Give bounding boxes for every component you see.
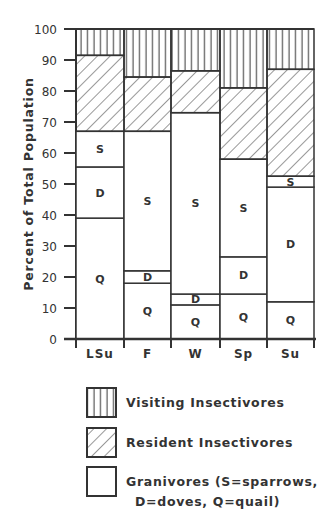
y-tick-label: 60 [42,147,57,161]
legend: Visiting InsectivoresResident Insectivor… [87,388,318,509]
segment-label: D [286,238,295,251]
x-axis: LSuFWSpSu [64,339,316,361]
segment-label: Q [191,316,200,329]
bar-segment [220,88,267,159]
x-tick-label: F [143,347,152,361]
bar-segment [124,29,171,77]
legend-swatch [87,428,116,457]
bar-F: QDS [124,29,171,339]
segment-label: Q [143,305,152,318]
segment-label: S [144,195,152,208]
segment-label: S [96,143,104,156]
y-tick-label: 50 [42,178,57,192]
bar-segment [171,71,220,113]
segment-label: D [191,293,200,306]
legend-label: Granivores (S=sparrows, [126,474,318,489]
segment-label: Q [95,273,104,286]
segment-label: D [143,271,152,284]
bar-W: QDS [171,29,220,339]
bar-segment [76,29,124,55]
segment-label: S [192,197,200,210]
y-tick-label: 80 [42,85,57,99]
stacked-bar-chart: 0102030405060708090100 QDSQDSQDSQDSQDS L… [0,0,329,523]
y-tick-label: 10 [42,302,57,316]
legend-label: Resident Insectivores [126,435,293,450]
bar-Sp: QDS [220,29,267,339]
segment-label: D [239,269,248,282]
legend-label: Visiting Insectivores [126,395,285,410]
bar-segment [267,29,314,69]
segment-label: S [240,202,248,215]
bar-segment [220,29,267,88]
bar-segment [76,55,124,131]
x-tick-label: Sp [234,347,253,361]
bar-Su: QDS [267,29,314,339]
y-tick-label: 70 [42,116,57,130]
x-tick-label: W [188,347,202,361]
x-tick-label: Su [281,347,300,361]
bar-LSu: QDS [76,29,124,339]
y-axis-label: Percent of Total Population [21,77,36,290]
bar-segment [267,69,314,176]
y-tick-label: 0 [49,333,57,347]
y-tick-label: 100 [34,23,57,37]
segment-label: D [95,187,104,200]
segment-label: Q [286,314,295,327]
legend-label-line2: D=doves, Q=quail) [135,494,280,509]
y-tick-label: 90 [42,54,57,68]
bar-segment [124,77,171,131]
y-tick-label: 20 [42,271,57,285]
legend-swatch [87,467,116,496]
legend-swatch [87,388,116,417]
bar-segment [171,29,220,71]
segment-label: Q [239,311,248,324]
y-tick-label: 40 [42,209,57,223]
x-tick-label: LSu [86,347,114,361]
segment-label: S [287,176,295,189]
bars: QDSQDSQDSQDSQDS [76,29,314,339]
y-tick-label: 30 [42,240,57,254]
